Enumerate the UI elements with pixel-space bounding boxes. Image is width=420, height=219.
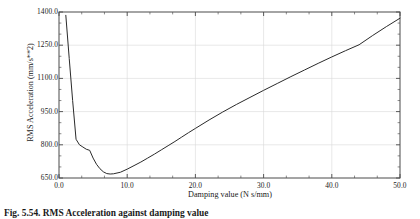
y-axis-title: RMS Acceleration (mm/s**2): [26, 8, 35, 178]
x-tick-label: 50.0: [380, 182, 420, 189]
plot-area: 1400.01250.01100.0950.0800.0650.0 0.010.…: [0, 0, 420, 200]
x-axis-tick-labels: 0.010.020.030.040.050.0: [0, 0, 420, 200]
x-tick-label: 40.0: [312, 182, 352, 189]
x-axis-title: Damping value (N s/mm): [59, 190, 401, 199]
x-tick-label: 0.0: [39, 182, 79, 189]
x-tick-label: 20.0: [175, 182, 215, 189]
figure-container: 1400.01250.01100.0950.0800.0650.0 0.010.…: [0, 0, 420, 219]
x-tick-label: 10.0: [107, 182, 147, 189]
figure-caption: Fig. 5.54. RMS Acceleration against damp…: [4, 208, 416, 219]
x-tick-label: 30.0: [244, 182, 284, 189]
